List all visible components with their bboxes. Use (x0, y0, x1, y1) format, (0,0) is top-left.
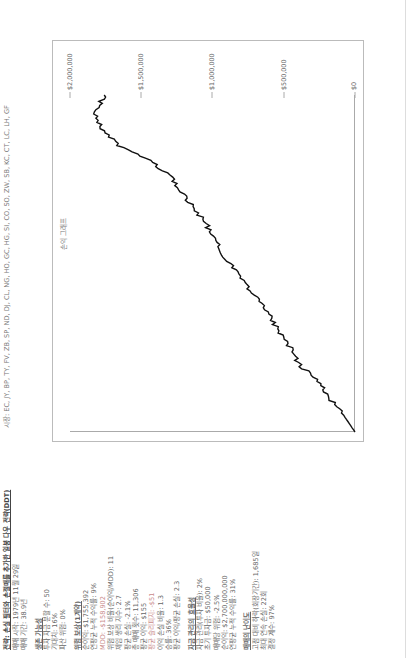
divider (405, 0, 406, 658)
equity-curve (0, 0, 419, 658)
stage: 전략: 손실 필터와 손절매를 추가한 일봉 다우 전략(DDT) 시장: EC… (0, 0, 419, 658)
